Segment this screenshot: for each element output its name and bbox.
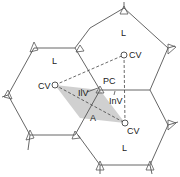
corner-triangles <box>4 6 176 170</box>
liver-lobule-diagram: L L L CV CV CV PC IlV InV A <box>0 0 180 177</box>
label-portal-canal: PC <box>103 76 116 86</box>
label-central-vein-left: CV <box>38 81 51 91</box>
label-lobule-top-left: L <box>52 56 57 66</box>
central-vein-top-right <box>121 52 127 58</box>
inv-pointer <box>114 91 115 95</box>
central-vein-left <box>52 82 58 88</box>
label-lobule-bottom-right: L <box>122 143 127 153</box>
label-acinus: A <box>90 113 96 123</box>
lobule-edges <box>2 2 178 174</box>
label-inlet-venule: InV <box>109 96 123 106</box>
label-central-vein-top-right: CV <box>129 50 142 60</box>
label-interlobular-vein: IlV <box>78 88 89 98</box>
label-lobule-top-right: L <box>121 28 126 38</box>
label-central-vein-bottom-right: CV <box>127 126 140 136</box>
